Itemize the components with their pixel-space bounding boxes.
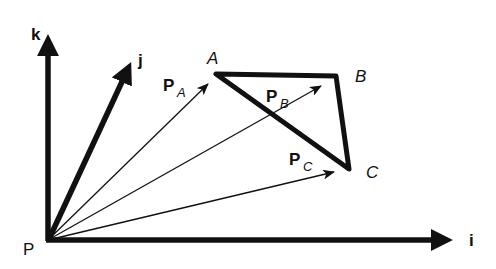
- vector-pb-subscript: B: [280, 96, 289, 111]
- triangle-abc: [216, 74, 349, 169]
- vector-pb-label: P: [266, 87, 277, 106]
- vector-pc: [48, 172, 334, 240]
- j-axis: [49, 71, 127, 239]
- point-c-label: C: [366, 163, 379, 182]
- point-a-label: A: [206, 49, 218, 68]
- i-axis-label: i: [469, 231, 474, 250]
- origin-label: P: [23, 240, 34, 259]
- vector-diagram: k j i P A B C P A P B P C: [0, 0, 496, 269]
- vector-pa: [48, 84, 208, 240]
- vector-pa-subscript: A: [176, 85, 186, 100]
- point-b-label: B: [355, 67, 366, 86]
- vector-pc-subscript: C: [303, 159, 313, 174]
- k-axis-label: k: [31, 25, 41, 44]
- j-axis-label: j: [137, 51, 143, 70]
- vector-pc-label: P: [289, 150, 300, 169]
- vector-pa-label: P: [163, 76, 174, 95]
